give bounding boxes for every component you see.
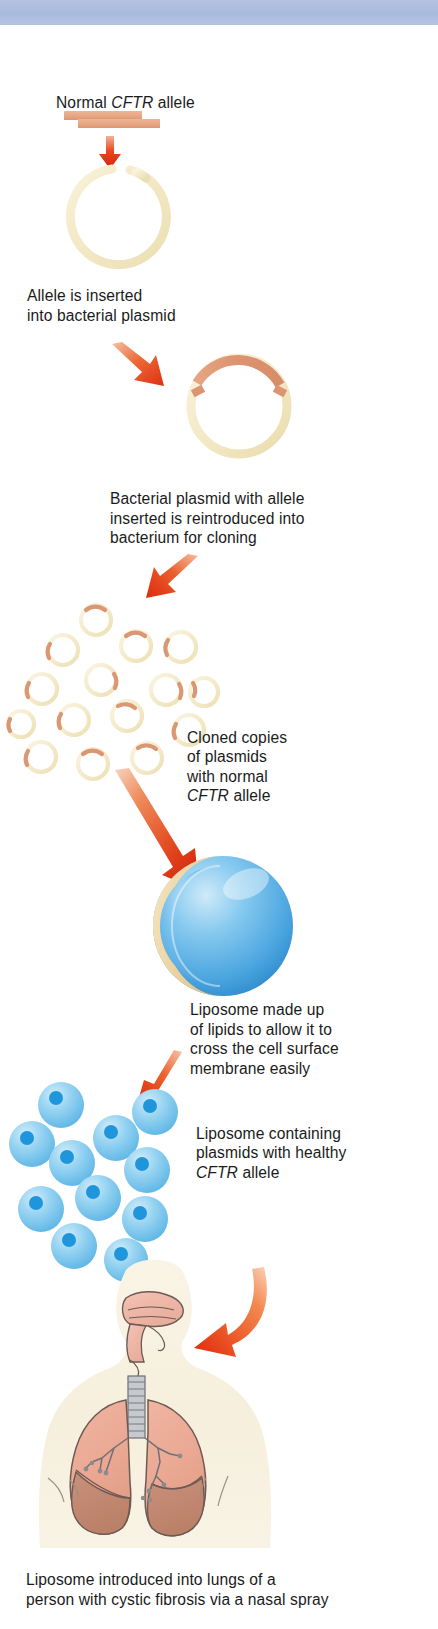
small-liposome bbox=[38, 1082, 84, 1128]
cloned-plasmid bbox=[151, 675, 181, 705]
diagram-page: Normal CFTR allele bbox=[0, 0, 438, 1629]
allele-bar-lower bbox=[78, 119, 160, 128]
open-plasmid-ring bbox=[60, 158, 178, 276]
cloned-plasmid-allele-arc bbox=[174, 724, 176, 738]
label-liposome-lipids: Liposome made up of lipids to allow it t… bbox=[190, 1000, 339, 1078]
small-liposome-plasmid-dot bbox=[20, 1131, 34, 1145]
arrow-2-shape bbox=[112, 342, 164, 386]
cloned-plasmid bbox=[166, 632, 196, 662]
small-liposome-plasmid-dot bbox=[60, 1150, 74, 1164]
small-liposome bbox=[18, 1186, 64, 1232]
small-liposome-plasmid-dot bbox=[62, 1233, 76, 1247]
label-allele-inserted: Allele is inserted into bacterial plasmi… bbox=[27, 286, 176, 325]
cloned-plasmid bbox=[86, 665, 116, 695]
small-liposome-cluster bbox=[14, 1078, 209, 1278]
plasmid-ring-arc-left bbox=[70, 169, 166, 265]
cloned-plasmid-allele-arc bbox=[126, 633, 145, 636]
small-liposome-plasmid-dot bbox=[135, 1157, 149, 1171]
cloned-plasmid-allele-arc bbox=[48, 644, 50, 658]
arrow-2 bbox=[110, 342, 172, 394]
cloned-plasmid bbox=[59, 705, 89, 735]
label-introduced-lungs: Liposome introduced into lungs of a pers… bbox=[26, 1570, 329, 1609]
allele-bar-upper bbox=[64, 111, 142, 120]
cloned-plasmid bbox=[27, 674, 57, 704]
cloned-plasmid-allele-arc bbox=[59, 714, 61, 728]
small-liposome-plasmid-dot bbox=[86, 1185, 100, 1199]
small-liposome-plasmid-dot bbox=[104, 1125, 118, 1139]
top-banner bbox=[0, 0, 438, 25]
cloned-plasmid-allele-arc bbox=[138, 745, 156, 749]
cloned-plasmid-allele-arc bbox=[27, 683, 29, 697]
trachea bbox=[128, 1376, 145, 1438]
cloned-plasmid-allele-arc bbox=[83, 751, 102, 754]
small-liposome bbox=[9, 1121, 55, 1167]
liposome-cutaway-sphere bbox=[148, 852, 298, 1000]
small-liposome-plasmid-dot bbox=[143, 1099, 157, 1113]
dna-fragment-bar bbox=[58, 108, 178, 134]
cloned-plasmid-allele-arc bbox=[193, 683, 195, 696]
small-liposome-plasmid-dot bbox=[133, 1206, 147, 1220]
human-torso-lungs bbox=[30, 1262, 290, 1562]
label-cloned-copies-post: allele bbox=[229, 787, 270, 804]
small-liposome-plasmid-dot bbox=[29, 1196, 43, 1210]
cloned-plasmid bbox=[8, 711, 34, 737]
plasmid-ring-arc-nub bbox=[136, 172, 146, 178]
cloned-plasmid-allele-arc bbox=[9, 719, 10, 731]
cloned-plasmid-allele-arc bbox=[179, 684, 181, 698]
label-liposome-containing-pre: Liposome containing plasmids with health… bbox=[196, 1125, 346, 1162]
cloned-plasmid bbox=[26, 742, 56, 772]
small-liposome bbox=[122, 1196, 168, 1242]
label-normal-allele: Normal CFTR allele bbox=[56, 73, 195, 112]
small-liposome bbox=[75, 1175, 121, 1221]
cloned-plasmid-allele-arc bbox=[86, 607, 105, 610]
label-liposome-containing-post: allele bbox=[238, 1164, 279, 1181]
small-liposome bbox=[124, 1147, 170, 1193]
gene-name-cftr: CFTR bbox=[196, 1164, 238, 1181]
small-liposome bbox=[132, 1089, 178, 1135]
cloned-plasmid-allele-arc bbox=[114, 674, 116, 688]
label-liposome-containing: Liposome containing plasmids with health… bbox=[196, 1104, 346, 1182]
small-liposome-plasmid-dot bbox=[114, 1247, 128, 1261]
small-liposome-plasmid-dot bbox=[49, 1091, 63, 1105]
cloned-plasmid-allele-arc bbox=[118, 704, 135, 708]
label-plasmid-reintroduced: Bacterial plasmid with allele inserted i… bbox=[110, 489, 304, 548]
plasmid-with-allele-arc bbox=[178, 345, 300, 467]
cloned-plasmid-allele-arc bbox=[26, 751, 28, 765]
cloned-plasmid bbox=[48, 635, 78, 665]
